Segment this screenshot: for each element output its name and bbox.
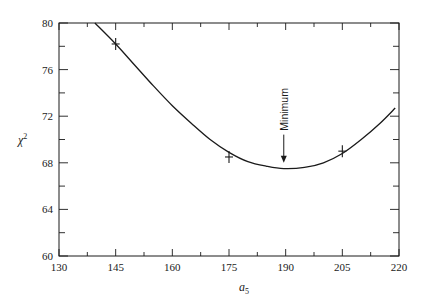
- svg-text:Minimum: Minimum: [278, 88, 290, 131]
- svg-text:220: 220: [391, 261, 408, 273]
- svg-text:72: 72: [42, 110, 53, 122]
- svg-text:76: 76: [42, 64, 54, 76]
- svg-text:130: 130: [51, 261, 68, 273]
- svg-text:80: 80: [42, 17, 54, 29]
- svg-text:68: 68: [42, 157, 54, 169]
- svg-text:190: 190: [277, 261, 294, 273]
- svg-text:64: 64: [42, 203, 54, 215]
- svg-text:145: 145: [107, 261, 124, 273]
- tick-labels: 130145160175190205220606468727680: [42, 17, 408, 273]
- svg-text:175: 175: [221, 261, 238, 273]
- plot-frame: [59, 23, 399, 256]
- svg-text:160: 160: [164, 261, 181, 273]
- axis-ticks: [59, 23, 399, 256]
- svg-text:a5: a5: [239, 280, 249, 296]
- svg-text:205: 205: [334, 261, 351, 273]
- svg-text:60: 60: [42, 250, 54, 262]
- data-points: [112, 38, 347, 163]
- svg-text:χ2: χ2: [17, 132, 27, 147]
- fit-curve: [95, 23, 395, 169]
- chi-square-chart: 130145160175190205220606468727680 Minimu…: [0, 0, 422, 301]
- minimum-annotation: Minimum: [278, 88, 290, 163]
